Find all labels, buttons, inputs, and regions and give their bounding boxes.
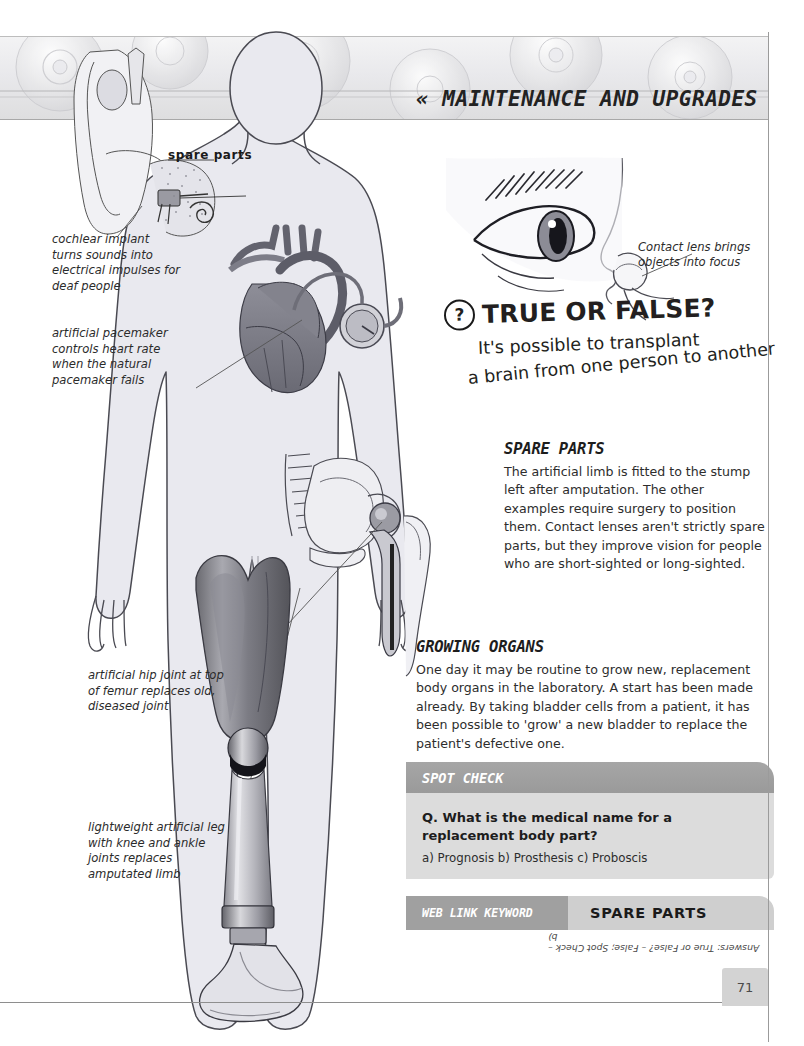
caption-hip-joint: artificial hip joint at top of femur rep…	[88, 668, 238, 715]
leader-line-leg	[238, 588, 300, 828]
web-link-label-cell: WEB LINK KEYWORD	[406, 896, 568, 930]
caption-contact-lens: Contact lens brings objects into focus	[638, 240, 794, 270]
spot-check-title: SPOT CHECK	[422, 770, 503, 786]
book-page: « MAINTENANCE AND UPGRADES »	[0, 0, 804, 1046]
spot-check-question: Q. What is the medical name for a replac…	[422, 809, 758, 844]
web-link-keyword: SPARE PARTS	[590, 905, 707, 921]
chapter-banner: « MAINTENANCE AND UPGRADES »	[0, 36, 769, 120]
prosthetic-leg-illustration	[196, 556, 303, 1022]
leader-line-hip	[240, 522, 382, 676]
section-spare-parts: SPARE PARTS The artificial limb is fitte…	[504, 440, 766, 573]
caption-artificial-leg: lightweight artificial leg with knee and…	[88, 820, 238, 882]
section-heading: SPARE PARTS	[504, 440, 766, 458]
heart-pacemaker-diagram	[230, 228, 401, 393]
section-growing-organs: GROWING ORGANS One day it may be routine…	[416, 638, 772, 753]
true-or-false-title: TRUE OR FALSE?	[482, 293, 716, 329]
spot-check-options: a) Prognosis b) Prosthesis c) Proboscis	[422, 851, 758, 865]
section-body: The artificial limb is fitted to the stu…	[504, 463, 766, 573]
spot-check-box: SPOT CHECK Q. What is the medical name f…	[406, 762, 774, 879]
web-link-label: WEB LINK KEYWORD	[422, 906, 533, 920]
spot-check-body: Q. What is the medical name for a replac…	[406, 793, 774, 879]
page-number: 71	[722, 968, 768, 1006]
label-spare-parts: spare parts	[168, 148, 252, 162]
page-border-vertical	[768, 32, 769, 1042]
web-link-keyword-cell: SPARE PARTS	[568, 896, 774, 930]
leader-line-pacemaker	[196, 320, 302, 388]
section-heading: GROWING ORGANS	[416, 638, 772, 656]
answers-text: Answers: True or False? – False; Spot Ch…	[548, 932, 766, 954]
section-body: One day it may be routine to grow new, r…	[416, 661, 772, 753]
web-link-bar: WEB LINK KEYWORD SPARE PARTS	[406, 896, 774, 930]
caption-cochlear-implant: cochlear implant turns sounds into elect…	[52, 232, 182, 294]
page-border-horizontal	[0, 1002, 740, 1003]
true-or-false-header: ? TRUE OR FALSE?	[444, 291, 775, 331]
pelvis-hip-joint-diagram	[285, 454, 430, 676]
caption-pacemaker: artificial pacemaker controls heart rate…	[52, 326, 192, 388]
question-mark-icon: ?	[444, 299, 476, 331]
chapter-title: « MAINTENANCE AND UPGRADES »	[416, 87, 756, 120]
spot-check-header: SPOT CHECK	[406, 762, 774, 793]
true-or-false-block: ? TRUE OR FALSE? It's possible to transp…	[444, 300, 774, 331]
